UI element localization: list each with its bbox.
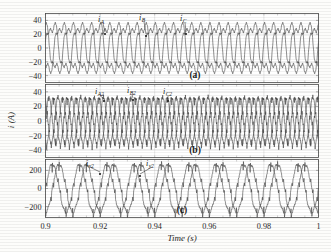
x-axis-title: Time (s) [167,233,196,243]
figure-container: 40200−20−40(a)40200−20−40(b)2000−200(c)i… [0,0,331,252]
y-tick-label: −200 [25,203,42,212]
leader-arrowhead [132,99,134,101]
leader-arrowhead [185,33,187,35]
leader-arrowhead [99,173,101,175]
y-axis-title: i (A) [6,112,16,128]
leader-arrowhead [103,100,105,102]
panel-label-b: (b) [189,145,201,156]
y-tick-label: 40 [33,16,41,25]
y-tick-label: 20 [33,102,41,111]
panel-label-a: (a) [189,70,200,81]
y-tick-label: −20 [29,58,42,67]
y-tick-label: −40 [29,146,42,155]
leader-arrowhead [104,33,106,35]
x-tick-label: 0.9 [40,222,50,231]
x-tick-label: 0.92 [93,222,107,231]
y-tick-label: −40 [29,72,42,81]
waveform-plot: 40200−20−40(a)40200−20−40(b)2000−200(c)i… [0,0,331,252]
y-tick-label: −20 [29,132,42,141]
y-tick-label: 20 [33,30,41,39]
y-tick-label: 0 [37,184,41,193]
x-tick-label: 0.98 [257,222,271,231]
y-tick-label: 0 [37,117,41,126]
panel-label-c: (c) [177,205,188,216]
x-tick-label: 0.94 [148,222,162,231]
y-tick-label: 40 [33,88,41,97]
leader-arrowhead [167,100,169,102]
leader-arrowhead [145,35,147,37]
x-tick-label: 0.96 [202,222,216,231]
leader-arrowhead [139,175,141,177]
x-tick-label: 1 [316,222,320,231]
y-tick-label: 200 [29,166,41,175]
y-tick-label: 0 [37,44,41,53]
